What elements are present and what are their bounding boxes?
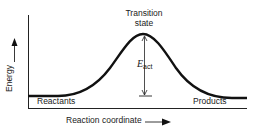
eact-subscript: act	[143, 63, 152, 70]
reactants-label: Reactants	[37, 96, 75, 106]
arrow-up-icon	[12, 38, 18, 62]
transition-state-label: Transition state	[124, 8, 164, 28]
transition-state-line2: state	[124, 18, 164, 28]
activation-energy-label: Eact	[137, 58, 152, 70]
y-axis-label: Energy	[4, 65, 14, 92]
products-label: Products	[193, 96, 227, 106]
transition-state-line1: Transition	[124, 8, 164, 18]
x-axis-label: Reaction coordinate	[66, 115, 142, 125]
arrow-right-icon	[145, 119, 171, 126]
